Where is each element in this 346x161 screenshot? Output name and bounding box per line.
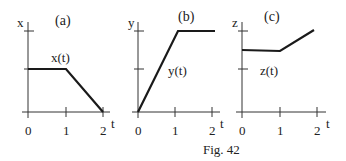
x-tick-label: 2 — [100, 123, 107, 138]
x-tick-label: 1 — [172, 123, 179, 138]
panel-label: (b) — [178, 9, 195, 25]
x-axis-label: t — [111, 116, 115, 131]
x-tick-label: 1 — [63, 123, 70, 138]
x-tick-label: 0 — [135, 123, 142, 138]
figure-caption: Fig. 42 — [203, 142, 240, 158]
curve-label: x(t) — [51, 50, 70, 65]
x-tick-label: 0 — [239, 123, 246, 138]
curve-label: z(t) — [260, 63, 278, 78]
figure-canvas: x (a) x(t) 0 1 2 t y (b) y(t) 0 1 2 t z … — [0, 0, 346, 161]
x-tick-label: 2 — [314, 123, 321, 138]
panel-label: (a) — [55, 13, 71, 29]
panel-label: (c) — [264, 9, 280, 25]
y-axis-label: x — [17, 15, 24, 30]
curve-z — [242, 30, 314, 51]
y-axis-label: y — [128, 15, 135, 30]
chart-b: y (b) y(t) 0 1 2 t — [128, 9, 224, 138]
x-tick-label: 0 — [25, 123, 32, 138]
x-axis-label: t — [326, 116, 330, 131]
curve-label: y(t) — [168, 63, 187, 78]
curve-x — [28, 69, 103, 112]
x-tick-label: 2 — [209, 123, 216, 138]
chart-c: z (c) z(t) 0 1 2 t — [232, 9, 330, 138]
x-axis-label: t — [220, 116, 224, 131]
x-tick-label: 1 — [277, 123, 284, 138]
y-axis-label: z — [232, 15, 238, 30]
chart-a: x (a) x(t) 0 1 2 t — [17, 13, 115, 138]
